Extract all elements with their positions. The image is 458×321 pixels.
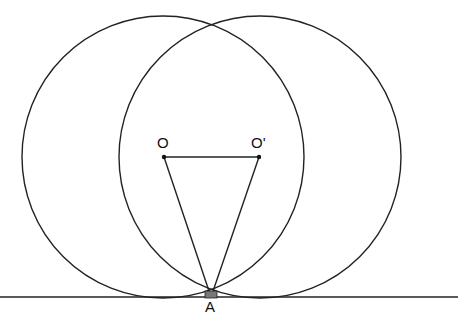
segment-o-a	[164, 157, 211, 297]
label-o: O	[157, 134, 169, 151]
point-o-prime	[257, 155, 261, 159]
point-o	[162, 155, 166, 159]
segment-o-prime-a	[211, 157, 259, 297]
right-angle-marker	[205, 291, 217, 298]
label-o-prime: O'	[251, 134, 266, 151]
geometry-diagram: O O' A	[0, 0, 458, 321]
label-a: A	[205, 298, 215, 315]
